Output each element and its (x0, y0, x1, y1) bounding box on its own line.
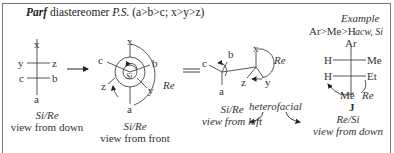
example-fischer-projection (328, 47, 366, 95)
sawhorse-c: c (202, 57, 207, 69)
fischer-caption: Si/Re view from down (5, 109, 89, 133)
example-priority: Ar>Me>H (309, 25, 356, 37)
example-caption-view: view from down (305, 125, 391, 137)
equals-icon (183, 69, 200, 72)
heterofacial-right-arrow-icon (286, 112, 300, 122)
newman-caption-faces: Si/Re (93, 120, 177, 132)
sawhorse-arc: Re (273, 54, 286, 66)
fischer-left1: y (18, 57, 24, 69)
example-right1: Me (367, 54, 382, 66)
sawhorse-a: a (219, 85, 224, 97)
fischer-caption-faces: Si/Re (5, 109, 89, 121)
example-caption: Re/Si view from down (305, 113, 391, 137)
fischer-caption-view: view from down (5, 121, 89, 133)
example-heading: Example (340, 12, 380, 24)
newman-caption: Si/Re view from front (93, 120, 177, 144)
newman-b: b (152, 57, 158, 69)
fischer-left2: c (19, 72, 24, 84)
compound-label: J (349, 101, 355, 113)
newman-bottom: a (127, 103, 132, 115)
newman-c: c (98, 54, 103, 66)
sawhorse-caption-faces: Si/Re (190, 103, 274, 115)
fischer-top: x (34, 38, 40, 50)
example-top: Ar (345, 37, 357, 49)
newman-caption-view: view from front (93, 132, 177, 144)
fischer-right2: b (52, 72, 58, 84)
newman-arc: Re (162, 79, 175, 91)
example-caption-faces: Re/Si (305, 113, 391, 125)
sawhorse-x: x (253, 42, 259, 54)
sawhorse-z: z (241, 76, 246, 88)
fischer-right1: z (52, 57, 57, 69)
sawhorse-caption-view: view from left (190, 115, 274, 127)
newman-y: y (148, 84, 154, 96)
newman-z: z (101, 80, 106, 92)
example-bottom: Me (340, 89, 355, 101)
sawhorse-y: y (265, 76, 271, 88)
example-rotation: acw, Si (355, 26, 383, 37)
example-right2: Et (367, 70, 377, 82)
newman-center: Si (126, 72, 132, 81)
sawhorse-caption: Si/Re view from left (190, 103, 274, 127)
newman-top: x (127, 35, 133, 47)
example-left1: H (324, 54, 332, 66)
sawhorse-b: b (228, 48, 234, 60)
example-arc: Re (361, 89, 374, 101)
fischer-bottom: a (34, 93, 39, 105)
example-left2: H (324, 70, 332, 82)
